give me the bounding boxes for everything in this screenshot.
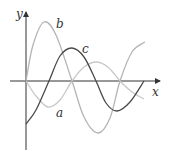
curve-c-label: c <box>82 42 89 56</box>
curve-b-label: b <box>56 17 64 31</box>
curve-a-label: a <box>56 106 63 120</box>
x-axis-label: x <box>152 85 159 99</box>
chart: y x b c a <box>0 0 170 155</box>
curve-b <box>26 22 145 133</box>
y-axis-label: y <box>15 7 23 21</box>
curve-a <box>26 62 144 107</box>
curve-c <box>26 48 144 124</box>
